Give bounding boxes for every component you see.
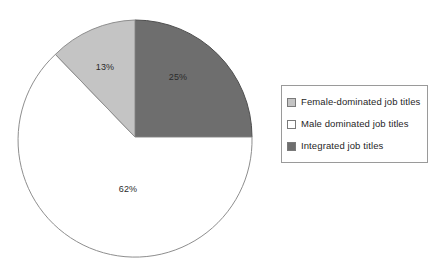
- chart-legend: Female-dominated job titles Male dominat…: [281, 85, 428, 163]
- pie-chart-figure: 25% 62% 13% Female-dominated job titles …: [0, 0, 439, 263]
- pie-chart-svg: 25% 62% 13%: [0, 0, 265, 263]
- legend-label-integrated: Integrated job titles: [301, 135, 383, 157]
- pie-chart-plot-area: 25% 62% 13%: [0, 0, 265, 263]
- legend-label-female-dominated: Female-dominated job titles: [301, 91, 420, 113]
- pie-slice-integrated-job-titles: [135, 20, 252, 137]
- pie-slice-label-integrated: 25%: [169, 72, 188, 82]
- legend-item-female-dominated: Female-dominated job titles: [287, 91, 427, 113]
- legend-item-integrated: Integrated job titles: [287, 135, 427, 157]
- legend-swatch-icon-female-dominated: [287, 98, 296, 107]
- pie-slice-label-male-dominated: 62%: [119, 184, 138, 194]
- legend-label-male-dominated: Male dominated job titles: [301, 113, 409, 135]
- legend-swatch-icon-male-dominated: [287, 120, 296, 129]
- legend-item-male-dominated: Male dominated job titles: [287, 113, 427, 135]
- legend-swatch-icon-integrated: [287, 142, 296, 151]
- pie-slice-label-female-dominated: 13%: [96, 62, 115, 72]
